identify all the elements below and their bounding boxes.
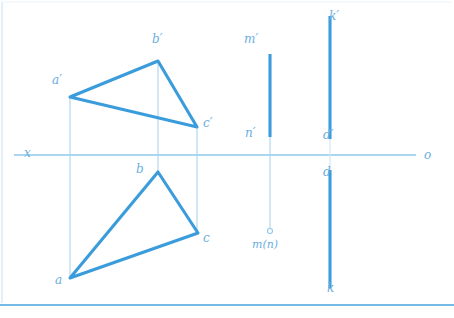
axis-label-x: x: [24, 147, 31, 159]
point-m-n: [268, 229, 273, 234]
horizontal-projection-triangle: [70, 172, 198, 278]
point-label-k-prime: k′: [329, 10, 339, 22]
point-label-d: d: [323, 166, 331, 178]
projection-connectors: [70, 61, 270, 278]
point-label-m-n: m(n): [252, 239, 278, 250]
drawing-canvas: x o a′ b′ c′ a b c m′ n′ m(n) k′ d′ d k: [0, 0, 454, 318]
vertex-label-b-prime: b′: [152, 33, 162, 45]
point-label-k: k: [327, 282, 334, 294]
frontal-projection-triangle: [70, 61, 197, 127]
vertex-label-a: a: [55, 274, 62, 286]
page-frame: [0, 2, 454, 305]
vertex-label-c-prime: c′: [203, 117, 212, 129]
point-label-d-prime: d′: [323, 129, 333, 141]
vertex-label-a-prime: a′: [52, 74, 62, 86]
vertex-label-b: b: [136, 163, 144, 175]
geometry-svg: [0, 0, 454, 318]
vertex-label-c: c: [203, 232, 210, 244]
point-label-m-prime: m′: [244, 33, 258, 45]
axis-label-o: o: [424, 149, 431, 161]
point-label-n-prime: n′: [245, 127, 255, 139]
